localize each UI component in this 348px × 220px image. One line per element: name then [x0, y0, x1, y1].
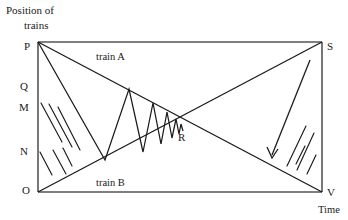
label-N: N	[20, 145, 28, 157]
hatch-right-4	[307, 155, 316, 174]
train-b-label: train B	[96, 177, 125, 188]
hatch-group-right	[287, 126, 316, 174]
hatch-right-1	[287, 126, 306, 166]
x-axis-label: Time	[318, 204, 340, 215]
hatch-left-6	[63, 148, 72, 166]
train-a-label: train A	[96, 51, 125, 62]
hatch-left-2	[49, 104, 72, 147]
y-axis-title-line1: Position of	[6, 4, 54, 16]
label-M: M	[19, 101, 29, 113]
arrow-right-shaft	[272, 60, 310, 155]
position-time-diagram: Position of trains	[0, 0, 348, 220]
diagram-canvas: Position of trains	[0, 0, 348, 220]
label-P: P	[24, 40, 30, 52]
label-S: S	[327, 40, 333, 52]
label-Q: Q	[20, 80, 28, 92]
label-V: V	[327, 186, 335, 198]
meeting-point-label-R: R	[178, 131, 186, 143]
y-axis-title-line2: trains	[24, 19, 48, 31]
arrow-group-right	[267, 60, 310, 158]
hatch-group-left	[40, 103, 80, 175]
hatch-left-5	[53, 150, 66, 174]
label-O: O	[22, 184, 30, 196]
hatch-left-4	[40, 152, 52, 175]
hatch-left-3	[58, 107, 80, 150]
